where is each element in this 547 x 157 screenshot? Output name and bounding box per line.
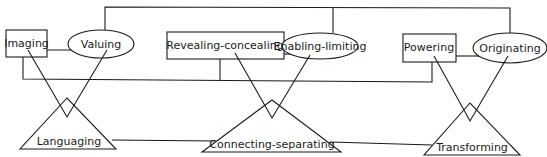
languaging-label: Languaging bbox=[37, 135, 102, 148]
imaging-label: Imaging bbox=[4, 37, 49, 50]
originating-label: Originating bbox=[479, 42, 540, 55]
triangle-link-left bbox=[112, 140, 215, 141]
transforming-label: Transforming bbox=[435, 141, 508, 154]
revealing-concealing-label: Revealing-concealing bbox=[166, 39, 283, 52]
enabling-limiting-label: Enabling-limiting bbox=[274, 40, 367, 53]
top-connector-line bbox=[105, 7, 510, 34]
connecting-separating-label: Connecting-separating bbox=[209, 138, 334, 151]
connecting-funnel bbox=[235, 53, 310, 118]
diagram-canvas: Imaging Revealing-concealing Powering Va… bbox=[0, 0, 547, 157]
languaging-funnel bbox=[28, 50, 107, 117]
transforming-funnel bbox=[434, 56, 508, 121]
triangle-link-right bbox=[330, 142, 432, 145]
powering-label: Powering bbox=[404, 41, 454, 54]
box-bus-line bbox=[23, 57, 432, 82]
valuing-label: Valuing bbox=[81, 38, 121, 51]
